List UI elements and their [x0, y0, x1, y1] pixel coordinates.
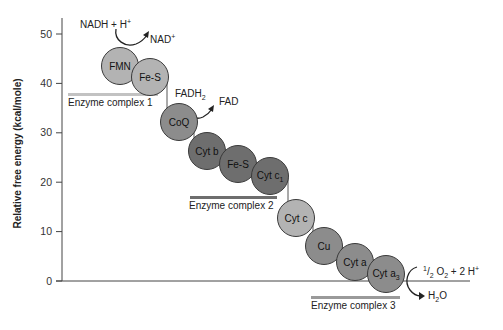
water-label: H2O	[428, 291, 447, 303]
y-tick-0: 0	[32, 276, 52, 287]
carrier-cyt-a3: Cyt a3	[367, 255, 405, 293]
carrier-coq-label: CoQ	[169, 117, 190, 128]
carrier-cu-label: Cu	[318, 241, 331, 252]
complex-2-label: Enzyme complex 2	[189, 201, 273, 211]
carrier-cyt-c1: Cyt c1	[251, 157, 289, 195]
carrier-coq: CoQ	[160, 103, 198, 141]
y-tick-40: 40	[32, 78, 52, 89]
oxygen-label: 1/2 O2 + 2 H+	[423, 265, 479, 279]
complex-2-bar	[190, 196, 277, 199]
complex-1-label: Enzyme complex 1	[68, 98, 152, 108]
y-tick-10: 10	[32, 226, 52, 237]
carrier-cyt-c: Cyt c	[277, 199, 315, 237]
nadh-label: NADH + H+	[80, 18, 131, 30]
nadh-arrow-icon	[116, 29, 147, 45]
carrier-cyt-a-label: Cyt a	[343, 257, 366, 268]
carrier-cyt-c-label: Cyt c	[285, 213, 308, 224]
carrier-cyt-b-label: Cyt b	[195, 146, 218, 157]
carrier-fes-1-label: Fe-S	[139, 72, 161, 83]
y-axis-label: Relative free energy (kcal/mole)	[12, 69, 23, 239]
fad-label: FAD	[219, 97, 238, 107]
carrier-cyt-a3-label: Cyt a3	[372, 268, 399, 281]
carrier-fmn-label: FMN	[109, 61, 131, 72]
y-ticks	[56, 34, 62, 281]
y-tick-50: 50	[32, 29, 52, 40]
oxygen-arrowhead-icon	[419, 292, 425, 300]
fadh2-label: FADH2	[175, 89, 206, 101]
carrier-fes-1: Fe-S	[131, 58, 169, 96]
complex-3-label: Enzyme complex 3	[311, 301, 395, 311]
nad-label: NAD+	[150, 33, 175, 45]
y-tick-30: 30	[32, 127, 52, 138]
complex-3-bar	[311, 296, 400, 299]
carrier-cyt-c1-label: Cyt c1	[257, 170, 284, 183]
carrier-fes-2-label: Fe-S	[227, 159, 249, 170]
y-tick-20: 20	[32, 177, 52, 188]
